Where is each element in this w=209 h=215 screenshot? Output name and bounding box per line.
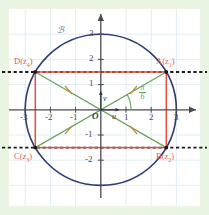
x-tick-label--2: -2 xyxy=(45,113,53,122)
x-tick-label--1: -1 xyxy=(70,113,78,122)
y-tick-label-3: 3 xyxy=(89,29,94,38)
point-label-b: B(z2) xyxy=(156,152,174,163)
angle-denominator: 6 xyxy=(139,93,146,101)
point-label-d: D(z4) xyxy=(14,57,33,68)
x-tick-label-2: 2 xyxy=(149,113,154,122)
point-label-d-text: D(z xyxy=(14,56,27,66)
point-label-d-close: ) xyxy=(30,56,33,66)
complex-plane-plot xyxy=(0,0,209,215)
point-marker-d xyxy=(33,70,37,74)
y-tick-label-1: 1 xyxy=(89,79,94,88)
point-marker-c xyxy=(33,146,37,150)
angle-label-pi-over-6: π 6 xyxy=(139,84,146,101)
y-tick-label-2: 2 xyxy=(89,54,94,63)
y-tick-label--1: -1 xyxy=(85,130,93,139)
x-tick-label--3: -3 xyxy=(20,113,28,122)
point-label-a-text: A(z xyxy=(156,56,169,66)
vector-label-u: u xyxy=(112,113,116,121)
point-label-c-text: C(z xyxy=(14,151,26,161)
figure-canvas: ℬ O -3 -2 -1 1 2 3 3 2 1 -1 -2 v u π 6 A… xyxy=(0,0,209,215)
point-label-a-close: ) xyxy=(172,56,175,66)
point-label-b-text: B(z xyxy=(156,151,168,161)
x-tick-label-1: 1 xyxy=(124,113,129,122)
point-label-a: A(z1) xyxy=(156,57,175,68)
point-marker-a xyxy=(164,70,168,74)
point-label-c-close: ) xyxy=(29,151,32,161)
x-tick-label-3: 3 xyxy=(174,113,179,122)
point-marker-b xyxy=(164,146,168,150)
vector-label-v: v xyxy=(103,95,107,103)
curve-label-script-c: ℬ xyxy=(57,26,64,35)
point-label-c: C(z3) xyxy=(14,152,32,163)
y-tick-label--2: -2 xyxy=(85,155,93,164)
point-label-b-close: ) xyxy=(171,151,174,161)
origin-label: O xyxy=(92,112,99,121)
angle-numerator: π xyxy=(139,84,146,92)
